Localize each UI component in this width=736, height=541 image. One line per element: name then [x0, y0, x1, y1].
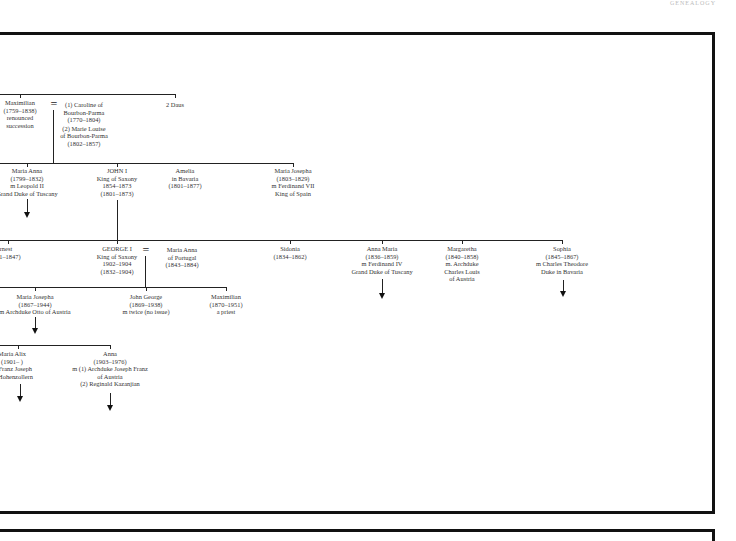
- person-anna-maria: Anna Maria (1836–1859) m Ferdinand IV Gr…: [351, 245, 412, 275]
- gen4-tick-maria-josepha: [35, 287, 36, 291]
- gen4-tick-john-george: [146, 287, 147, 291]
- person-sophia: Sophia (1845–1867) m Charles Theodore Du…: [536, 245, 588, 275]
- person-john-george: John George (1869–1938) m twice (no issu…: [122, 293, 169, 316]
- gen3-tick-sophia: [562, 240, 563, 244]
- gen3-tick-george: [117, 240, 118, 244]
- gen3-tick-margaretha: [462, 240, 463, 244]
- person-ernest: Ernest (1831–1847): [0, 245, 21, 260]
- person-maximilian: Maximilian (1759–1838) renounced success…: [3, 99, 36, 129]
- person-sidonia: Sidonia (1834–1862): [273, 245, 306, 260]
- next-panel-top-border: [0, 529, 715, 532]
- frame-right-border: [712, 32, 715, 514]
- person-john-i: JOHN I King of Saxony 1854–1873 (1801–18…: [97, 167, 137, 197]
- gen2-sibling-line: [0, 163, 294, 164]
- descendants-arrow-icon: [110, 393, 111, 406]
- gen3-tick-sidonia: [290, 240, 291, 244]
- descendants-arrow-icon: [20, 384, 21, 397]
- person-2-daus: 2 Daus: [166, 101, 184, 109]
- person-maria-alix: Maria Alix (1901– ) m Franz Joseph of Ho…: [0, 350, 33, 380]
- descendants-arrow-icon: [382, 279, 383, 294]
- marriage-symbol: =: [51, 99, 58, 109]
- frame-bottom-border: [0, 511, 715, 514]
- person-wives-maximilian: (1) Caroline of Bourbon-Parma (1770–1804…: [60, 101, 108, 148]
- gen4-tick-maximilian: [226, 287, 227, 291]
- person-maria-anna: Maria Anna (1799–1832) m Leopold II Gran…: [0, 167, 58, 197]
- person-margaretha: Margaretha (1840–1858) m. Archduke Charl…: [444, 245, 480, 283]
- descendants-arrow-icon: [35, 317, 36, 329]
- person-maria-josepha-austria: Maria Josepha (1867–1944) m Archduke Ott…: [0, 293, 71, 316]
- gen5-tick-anna: [110, 345, 111, 349]
- gen3-tick-anna-maria: [382, 240, 383, 244]
- gen1-tick-daus: [175, 94, 176, 98]
- gen1-tick-maximilian: [20, 94, 21, 98]
- gen2-descent-line: [117, 200, 118, 240]
- person-maximilian-priest: Maximilian (1870–1951) a priest: [209, 293, 242, 316]
- gen1-sibling-line: [0, 94, 176, 95]
- gen5-sibling-line: [0, 345, 111, 346]
- person-anna: Anna (1903–1976) m (1) Archduke Joseph F…: [72, 350, 148, 388]
- person-amelia: Amelia in Bavaria (1801–1877): [168, 167, 201, 190]
- gen3-tick-ernest: [8, 240, 9, 244]
- next-panel-right-border: [712, 529, 715, 541]
- page-header: GENEALOGY: [670, 0, 716, 6]
- person-maria-josepha-spain: Maria Josepha (1803–1829) m Ferdinand VI…: [272, 167, 315, 197]
- person-maria-anna-portugal: Maria Anna of Portugal (1843–1884): [165, 246, 198, 269]
- frame-top-border: [0, 32, 715, 35]
- gen3-descent-line: [145, 256, 146, 287]
- gen1-descent-line: [53, 110, 54, 163]
- marriage-symbol-george: =: [143, 245, 150, 255]
- descendants-arrow-icon: [563, 280, 564, 292]
- person-george-i: GEORGE I King of Saxony 1902–1904 (1832–…: [97, 245, 137, 275]
- gen3-sibling-line: [0, 240, 563, 241]
- gen5-tick-maria-alix: [18, 345, 19, 349]
- descendants-arrow-icon: [27, 199, 28, 213]
